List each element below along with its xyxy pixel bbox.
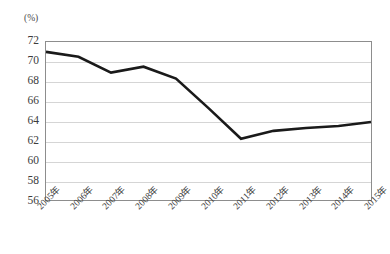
y-tick-label: 68 xyxy=(28,75,40,87)
y-axis-unit-label: (%) xyxy=(24,13,38,23)
series-line-layer xyxy=(46,42,371,200)
y-axis-tick-labels: 727068666462605856 xyxy=(0,41,45,201)
x-axis-tick-labels: 2005年2006年2007年2008年2009年2010年2011年2012年… xyxy=(45,201,372,254)
series-line xyxy=(46,52,371,139)
y-tick-label: 70 xyxy=(28,55,40,67)
y-tick-label: 64 xyxy=(28,115,40,127)
y-tick-label: 72 xyxy=(28,35,40,47)
y-tick-label: 62 xyxy=(28,135,40,147)
plot-area xyxy=(45,41,372,201)
y-tick-label: 58 xyxy=(28,175,40,187)
y-tick-label: 66 xyxy=(28,95,40,107)
y-tick-label: 60 xyxy=(28,155,40,167)
line-chart: (%) 727068666462605856 2005年2006年2007年20… xyxy=(0,0,390,254)
